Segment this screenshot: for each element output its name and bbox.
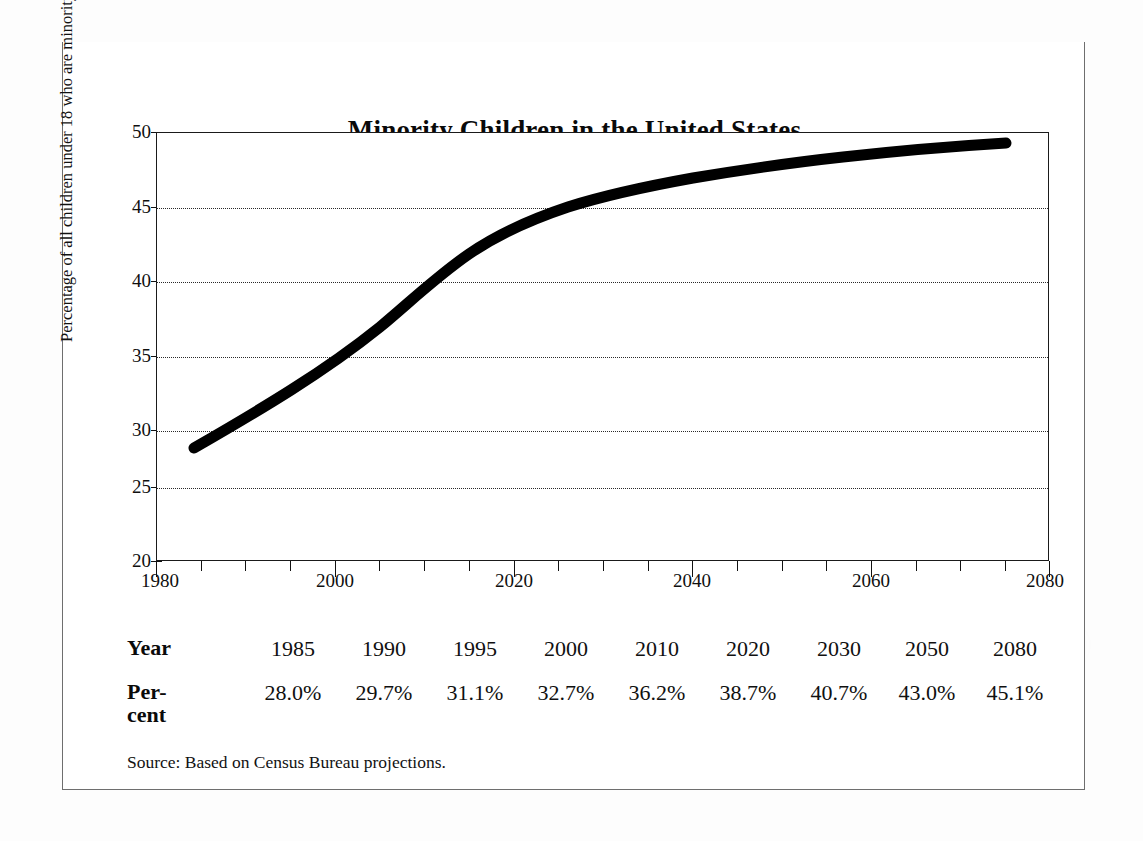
table-cell-percent-5: 38.7% bbox=[720, 680, 777, 706]
table-cell-year-6: 2030 bbox=[817, 636, 861, 662]
table-cell-year-8: 2080 bbox=[993, 636, 1037, 662]
data-curve bbox=[157, 133, 1050, 562]
x-tick-mark-2075 bbox=[1005, 561, 1006, 571]
x-tick-label-2020: 2020 bbox=[495, 570, 533, 592]
x-tick-mark-2010 bbox=[424, 561, 425, 571]
x-tick-label-2000: 2000 bbox=[316, 570, 354, 592]
x-tick-mark-2050 bbox=[782, 561, 783, 571]
x-tick-mark-2015 bbox=[469, 561, 470, 571]
x-tick-mark-1995 bbox=[290, 561, 291, 571]
data-table: Year 1985 1990 1995 2000 2010 2020 2030 … bbox=[127, 636, 1057, 736]
x-tick-mark-2065 bbox=[916, 561, 917, 571]
table-cell-percent-2: 31.1% bbox=[447, 680, 504, 706]
y-tick-label-50: 50 bbox=[103, 121, 151, 143]
table-cell-percent-0: 28.0% bbox=[265, 680, 322, 706]
x-tick-label-1980: 1980 bbox=[141, 570, 179, 592]
table-row-percent: Per-cent 28.0% 29.7% 31.1% 32.7% 36.2% 3… bbox=[127, 680, 1057, 736]
plot-frame bbox=[156, 132, 1049, 561]
table-cell-year-3: 2000 bbox=[544, 636, 588, 662]
table-cell-percent-7: 43.0% bbox=[899, 680, 956, 706]
x-tick-mark-2045 bbox=[737, 561, 738, 571]
x-tick-mark-2070 bbox=[960, 561, 961, 571]
table-cell-year-5: 2020 bbox=[726, 636, 770, 662]
row-label-percent-line2: cent bbox=[127, 702, 166, 727]
table-cell-year-2: 1995 bbox=[453, 636, 497, 662]
x-tick-mark-2005 bbox=[379, 561, 380, 571]
x-tick-mark-2030 bbox=[603, 561, 604, 571]
y-tick-label-25: 25 bbox=[103, 476, 151, 498]
x-tick-mark-2035 bbox=[648, 561, 649, 571]
table-cell-percent-6: 40.7% bbox=[811, 680, 868, 706]
table-cell-percent-3: 32.7% bbox=[538, 680, 595, 706]
table-row-year: Year 1985 1990 1995 2000 2010 2020 2030 … bbox=[127, 636, 1057, 680]
source-note: Source: Based on Census Bureau projectio… bbox=[127, 752, 446, 773]
y-tick-label-40: 40 bbox=[103, 270, 151, 292]
figure-page: Minority Children in the United States P… bbox=[0, 0, 1143, 841]
row-label-percent: Per-cent bbox=[127, 680, 213, 726]
table-cell-year-1: 1990 bbox=[362, 636, 406, 662]
y-axis-label: Percentage of all children under 18 who … bbox=[57, 0, 77, 342]
table-cell-percent-8: 45.1% bbox=[987, 680, 1044, 706]
row-label-year: Year bbox=[127, 636, 213, 659]
x-tick-mark-1985 bbox=[201, 561, 202, 571]
table-cell-percent-4: 36.2% bbox=[629, 680, 686, 706]
x-tick-mark-2055 bbox=[826, 561, 827, 571]
table-cell-percent-1: 29.7% bbox=[356, 680, 413, 706]
table-cell-year-0: 1985 bbox=[271, 636, 315, 662]
x-tick-label-2060: 2060 bbox=[852, 570, 890, 592]
x-tick-mark-2025 bbox=[558, 561, 559, 571]
y-tick-label-45: 45 bbox=[103, 196, 151, 218]
x-tick-label-2080: 2080 bbox=[1026, 570, 1064, 592]
y-tick-label-35: 35 bbox=[103, 345, 151, 367]
x-tick-mark-1990 bbox=[245, 561, 246, 571]
table-cell-year-4: 2010 bbox=[635, 636, 679, 662]
table-cell-year-7: 2050 bbox=[905, 636, 949, 662]
row-label-percent-line1: Per- bbox=[127, 679, 166, 704]
x-tick-label-2040: 2040 bbox=[673, 570, 711, 592]
y-tick-label-20: 20 bbox=[103, 550, 151, 572]
figure-box: Minority Children in the United States P… bbox=[62, 42, 1085, 790]
y-tick-label-30: 30 bbox=[103, 419, 151, 441]
